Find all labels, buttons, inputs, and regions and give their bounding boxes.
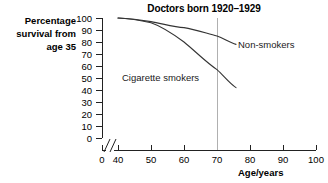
x-tick-label: 100 (308, 154, 324, 165)
y-tick-marks (96, 18, 102, 138)
y-tick-label: 70 (81, 49, 92, 60)
annotation-cigarette-smokers: Cigarette smokers (122, 72, 199, 83)
y-tick-label: 50 (81, 73, 92, 84)
x-axis-label: Age/years (238, 167, 283, 178)
y-tick-label: 40 (81, 85, 92, 96)
chart-figure: Doctors born 1920–1929 Percentage surviv… (0, 0, 328, 183)
y-axis-label: Percentage survival from age 35 (2, 14, 76, 54)
y-tick-label: 100 (76, 13, 92, 24)
y-axis-label-line-2: survival from (2, 27, 76, 40)
y-tick-label: 60 (81, 61, 92, 72)
annotation-non-smokers: Non-smokers (238, 39, 295, 50)
x-tick-label: 90 (278, 154, 289, 165)
y-tick-label: 80 (81, 37, 92, 48)
y-tick-labels: 100 90 80 70 60 50 40 30 20 10 0 (76, 13, 92, 144)
curve-non-smokers (118, 18, 236, 44)
x-tick-label: 60 (179, 154, 190, 165)
y-axis-label-line-1: Percentage (2, 14, 76, 27)
x-tick-label: 80 (245, 154, 256, 165)
y-tick-label: 0 (87, 133, 92, 144)
x-tick-label: 40 (113, 154, 124, 165)
x-tick-labels: 0 40 50 60 70 80 90 100 (99, 154, 324, 165)
x-tick-label: 0 (99, 154, 104, 165)
x-tick-marks (102, 145, 316, 150)
x-tick-label: 50 (146, 154, 157, 165)
x-tick-label: 70 (212, 154, 223, 165)
y-tick-label: 90 (81, 25, 92, 36)
y-tick-label: 30 (81, 97, 92, 108)
y-tick-label: 10 (81, 121, 92, 132)
y-axis-label-line-3: age 35 (2, 40, 76, 53)
chart-title: Doctors born 1920–1929 (104, 3, 304, 14)
y-tick-label: 20 (81, 109, 92, 120)
